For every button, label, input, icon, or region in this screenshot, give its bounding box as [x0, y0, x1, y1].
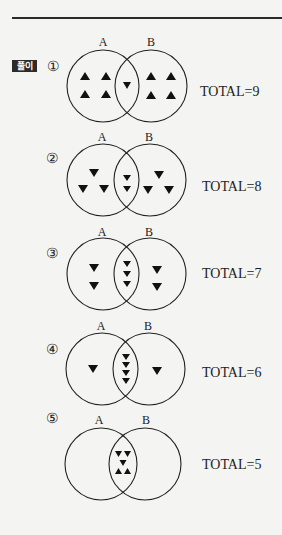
set-label-b: B [144, 319, 152, 333]
triangle-down-icon [123, 281, 131, 287]
set-b-circle [113, 333, 185, 405]
triangle-down-icon [89, 169, 99, 177]
triangle-up-icon [166, 91, 176, 99]
triangle-up-icon [101, 72, 111, 80]
set-label-b: B [142, 413, 150, 427]
triangle-down-icon [120, 460, 127, 466]
triangle-down-icon [143, 186, 153, 194]
triangle-up-icon [115, 468, 122, 474]
venn-diagram-5: ⑤ A B TOTAL=5 [46, 411, 262, 500]
total-label: TOTAL=7 [202, 266, 261, 281]
venn-diagram-4: ④ A B TOTAL=6 [46, 319, 262, 405]
triangle-down-icon [164, 186, 174, 194]
total-label: TOTAL=9 [200, 84, 259, 99]
triangle-down-icon [89, 264, 99, 272]
triangle-down-icon [89, 282, 99, 290]
set-label-a: A [98, 225, 107, 239]
set-b-circle [114, 238, 186, 310]
triangle-down-icon [123, 82, 131, 89]
set-label-b: B [145, 225, 153, 239]
triangle-up-icon [124, 468, 131, 474]
triangle-down-icon [124, 451, 131, 457]
triangle-up-icon [166, 72, 176, 80]
set-b-circle [114, 144, 186, 216]
triangle-down-icon [123, 186, 131, 192]
diagram-number: ① [47, 59, 60, 74]
triangle-up-icon [146, 72, 156, 80]
triangle-up-icon [80, 72, 90, 80]
triangle-down-icon [78, 185, 88, 193]
set-label-a: A [97, 319, 106, 333]
triangle-down-icon [152, 283, 162, 291]
set-a-circle [65, 428, 137, 500]
diagram-number: ⑤ [46, 411, 59, 426]
triangle-up-icon [146, 91, 156, 99]
diagram-number: ② [46, 151, 59, 166]
venn-diagram-2: ② A B TOTAL=8 [46, 130, 262, 216]
set-label-b: B [145, 130, 153, 144]
diagram-number: ③ [46, 246, 59, 261]
diagram-number: ④ [46, 342, 59, 357]
set-label-a: A [99, 35, 108, 49]
set-b-circle [109, 428, 181, 500]
triangle-down-icon [122, 354, 130, 360]
triangle-up-icon [80, 90, 90, 98]
venn-diagram-1: ① A B TOTAL=9 [47, 35, 260, 122]
set-a-circle [67, 144, 139, 216]
triangle-down-icon [122, 362, 130, 368]
triangle-down-icon [88, 365, 98, 373]
total-label: TOTAL=6 [202, 365, 261, 380]
total-label: TOTAL=5 [202, 457, 261, 472]
set-label-a: A [95, 413, 104, 427]
triangle-down-icon [152, 266, 162, 274]
triangle-down-icon [115, 451, 122, 457]
triangle-down-icon [123, 175, 131, 181]
set-a-circle [66, 333, 138, 405]
triangle-down-icon [154, 171, 164, 179]
venn-diagram-3: ③ A B TOTAL=7 [46, 225, 262, 310]
set-label-a: A [98, 130, 107, 144]
triangle-down-icon [152, 367, 162, 375]
total-label: TOTAL=8 [202, 179, 261, 194]
triangle-down-icon [123, 261, 131, 267]
triangle-down-icon [122, 370, 130, 376]
venn-diagram-stack: ① A B TOTAL=9 ② A B TOTAL=8 [0, 0, 282, 535]
triangle-up-icon [101, 90, 111, 98]
triangle-down-icon [123, 271, 131, 277]
set-label-b: B [147, 35, 155, 49]
triangle-down-icon [122, 378, 130, 384]
triangle-down-icon [99, 185, 109, 193]
